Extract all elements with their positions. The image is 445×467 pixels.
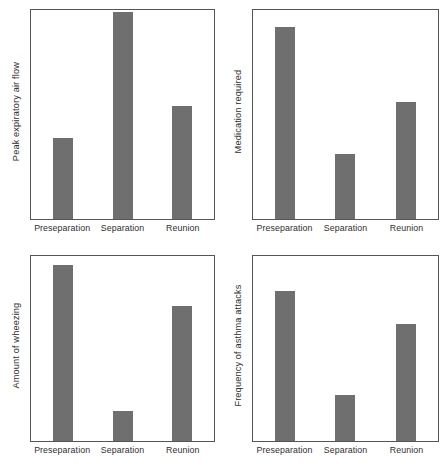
bar-group bbox=[31, 256, 214, 441]
bar-preseparation[interactable] bbox=[275, 27, 295, 219]
panel-amount-of-wheezing: Amount of wheezing Preseparation Separat… bbox=[6, 250, 216, 464]
x-axis-tick-labels: Preseparation Separation Reunion bbox=[30, 445, 215, 461]
plot-area bbox=[30, 9, 215, 220]
panel-frequency-of-asthma-attacks: Frequency of asthma attacks Preseparatio… bbox=[228, 250, 440, 464]
bar-slot bbox=[255, 10, 315, 219]
figure-multi-panel-bar-charts: Peak expiratory air flow Preseparation S… bbox=[0, 0, 445, 467]
bar-slot bbox=[152, 10, 212, 219]
plot-area bbox=[30, 255, 215, 442]
x-tick-reunion: Reunion bbox=[376, 445, 437, 455]
bar-slot bbox=[33, 10, 93, 219]
bar-preseparation[interactable] bbox=[275, 291, 295, 441]
bar-slot bbox=[315, 10, 375, 219]
bar-group bbox=[253, 10, 438, 219]
x-tick-separation: Separation bbox=[92, 445, 152, 455]
plot-area bbox=[252, 255, 439, 442]
bar-separation[interactable] bbox=[335, 395, 355, 441]
bar-reunion[interactable] bbox=[396, 324, 416, 441]
x-tick-preseparation: Preseparation bbox=[254, 223, 315, 233]
panel-peak-expiratory-air-flow: Peak expiratory air flow Preseparation S… bbox=[6, 4, 216, 242]
y-axis-title: Medication required bbox=[234, 70, 243, 154]
x-tick-separation: Separation bbox=[92, 223, 152, 233]
bar-group bbox=[31, 10, 214, 219]
bar-reunion[interactable] bbox=[172, 106, 192, 219]
x-tick-separation: Separation bbox=[315, 223, 376, 233]
x-tick-reunion: Reunion bbox=[153, 445, 213, 455]
bar-reunion[interactable] bbox=[396, 102, 416, 219]
x-axis-tick-labels: Preseparation Separation Reunion bbox=[252, 223, 439, 239]
bar-slot bbox=[376, 256, 436, 441]
bar-separation[interactable] bbox=[113, 12, 133, 219]
panel-medication-required: Medication required Preseparation Separa… bbox=[228, 4, 440, 242]
x-tick-reunion: Reunion bbox=[376, 223, 437, 233]
bar-reunion[interactable] bbox=[172, 306, 192, 441]
bar-slot bbox=[315, 256, 375, 441]
bar-slot bbox=[93, 256, 153, 441]
y-axis-title: Amount of wheezing bbox=[12, 303, 21, 389]
bar-separation[interactable] bbox=[113, 411, 133, 441]
x-tick-preseparation: Preseparation bbox=[32, 445, 92, 455]
x-tick-separation: Separation bbox=[315, 445, 376, 455]
x-axis-tick-labels: Preseparation Separation Reunion bbox=[252, 445, 439, 461]
y-axis-title-wrap: Medication required bbox=[228, 4, 250, 220]
x-axis-tick-labels: Preseparation Separation Reunion bbox=[30, 223, 215, 239]
bar-group bbox=[253, 256, 438, 441]
y-axis-title-wrap: Frequency of asthma attacks bbox=[228, 250, 250, 442]
plot-area bbox=[252, 9, 439, 220]
bar-slot bbox=[255, 256, 315, 441]
x-tick-preseparation: Preseparation bbox=[32, 223, 92, 233]
bar-slot bbox=[33, 256, 93, 441]
bar-slot bbox=[152, 256, 212, 441]
bar-preseparation[interactable] bbox=[53, 138, 73, 220]
y-axis-title: Peak expiratory air flow bbox=[12, 62, 21, 161]
y-axis-title: Frequency of asthma attacks bbox=[234, 285, 243, 407]
y-axis-title-wrap: Amount of wheezing bbox=[6, 250, 28, 442]
bar-slot bbox=[376, 10, 436, 219]
x-tick-preseparation: Preseparation bbox=[254, 445, 315, 455]
y-axis-title-wrap: Peak expiratory air flow bbox=[6, 4, 28, 220]
bar-separation[interactable] bbox=[335, 154, 355, 219]
x-tick-reunion: Reunion bbox=[153, 223, 213, 233]
bar-slot bbox=[93, 10, 153, 219]
bar-preseparation[interactable] bbox=[53, 265, 73, 441]
